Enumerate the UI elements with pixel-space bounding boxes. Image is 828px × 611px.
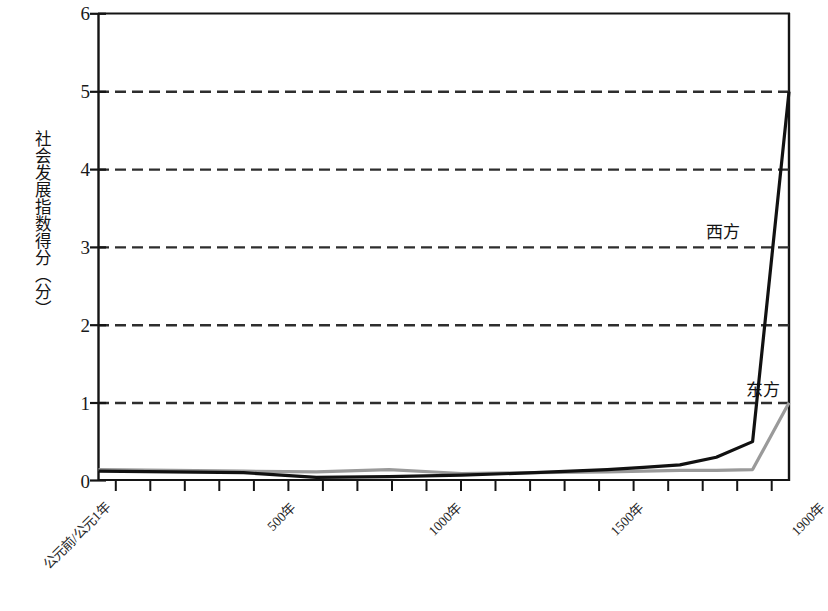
gridlines (98, 92, 789, 403)
x-axis-ticks (116, 481, 772, 492)
series-line-west (99, 92, 790, 478)
